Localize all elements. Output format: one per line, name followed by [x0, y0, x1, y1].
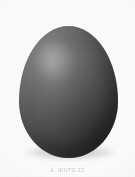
- egg-body: [19, 26, 118, 158]
- figure-caption-text: A. IKUTO 22: [51, 168, 85, 173]
- egg-photograph: [0, 0, 135, 163]
- figure-plate: A. IKUTO 22: [0, 0, 135, 177]
- figure-caption: A. IKUTO 22: [0, 163, 135, 177]
